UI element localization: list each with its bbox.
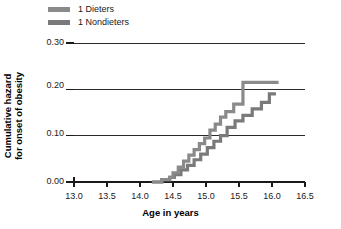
- chart-figure: 1 Dieters 1 Nondieters 0.30 0.20 0.10 0.…: [0, 0, 341, 229]
- series-dieters-line: [152, 82, 279, 182]
- series-nondieters-line: [152, 94, 276, 182]
- gridlines: [74, 43, 305, 136]
- xtick-label-13-5: 13.5: [94, 192, 120, 201]
- y-axis-title: Cumulative hazard for onset of obesity: [2, 51, 24, 181]
- xtick-label-13-0: 13.0: [61, 192, 87, 201]
- ytick-label-000: 0.00: [34, 177, 64, 186]
- y-axis-title-line2: for onset of obesity: [13, 51, 24, 181]
- x-axis-ticks: [74, 182, 305, 187]
- xtick-label-15-5: 15.5: [226, 192, 252, 201]
- ytick-label-010: 0.10: [34, 129, 64, 138]
- x-axis-title: Age in years: [0, 207, 341, 218]
- xtick-label-16-0: 16.0: [259, 192, 285, 201]
- ytick-label-030: 0.30: [34, 38, 64, 47]
- y-axis-ticks: [66, 43, 74, 182]
- y-axis-title-line1: Cumulative hazard: [2, 51, 13, 181]
- xtick-label-15-0: 15.0: [193, 192, 219, 201]
- ytick-label-020: 0.20: [34, 81, 64, 90]
- xtick-label-16-5: 16.5: [292, 192, 318, 201]
- xtick-label-14-0: 14.0: [127, 192, 153, 201]
- xtick-label-14-5: 14.5: [160, 192, 186, 201]
